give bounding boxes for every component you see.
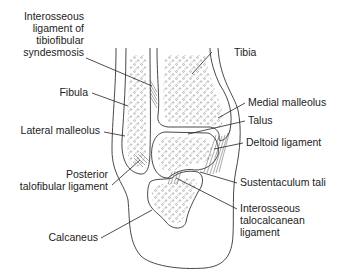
label-calcaneus: Calcaneus (48, 231, 98, 243)
fibula-bone (122, 48, 151, 174)
svg-text:syndesmosis: syndesmosis (23, 46, 84, 58)
label-deltoid-ligament: Deltoid ligament (246, 136, 321, 148)
label-posterior-talofibular: Posterior talofibular ligament (20, 168, 109, 192)
label-lateral-malleolus: Lateral malleolus (21, 124, 100, 136)
interosseous-tibiofibular-ligament (150, 80, 157, 108)
label-talus: Talus (248, 114, 273, 126)
label-fibula: Fibula (59, 86, 88, 98)
label-medial-malleolus: Medial malleolus (248, 96, 326, 108)
label-interosseous-talocalcanean: Interosseous talocalcanean ligament (240, 202, 305, 238)
svg-text:tibiofibular: tibiofibular (36, 34, 84, 46)
svg-text:Posterior: Posterior (66, 168, 109, 180)
ankle-diagram: Interosseous ligament of tibiofibular sy… (0, 0, 340, 279)
svg-text:Interosseous: Interosseous (240, 202, 300, 214)
svg-text:talocalcanean: talocalcanean (240, 214, 305, 226)
label-tibia: Tibia (234, 46, 257, 58)
label-sustentaculum-tali: Sustentaculum tali (240, 176, 326, 188)
svg-text:talofibular ligament: talofibular ligament (20, 180, 108, 192)
svg-text:ligament of: ligament of (33, 22, 84, 34)
label-interosseous-tibiofibular: Interosseous ligament of tibiofibular sy… (23, 10, 84, 58)
svg-text:ligament: ligament (240, 226, 280, 238)
svg-text:Interosseous: Interosseous (24, 10, 84, 22)
